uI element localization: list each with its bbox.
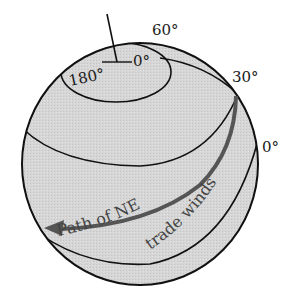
label-latitude-60: 60° [152, 21, 179, 39]
label-equator-0: 0° [262, 138, 279, 156]
label-latitude-30: 30° [232, 68, 259, 86]
globe [22, 43, 258, 285]
globe-diagram: 60° 30° 0° 180° 0° Path of NE trade wind… [0, 0, 294, 301]
label-longitude-0: 0° [133, 52, 150, 70]
